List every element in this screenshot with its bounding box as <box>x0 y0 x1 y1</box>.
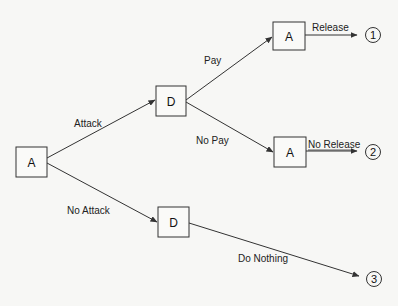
outcome-label: 2 <box>370 146 376 158</box>
edge-label-pay: Pay <box>204 55 221 66</box>
node-label: A <box>27 156 35 170</box>
node-label: A <box>286 146 294 160</box>
edge-label-no-pay: No Pay <box>196 135 229 146</box>
edge-label-no-release: No Release <box>308 139 361 150</box>
node-attacker-paid: A <box>273 22 305 50</box>
edge-attack: Attack <box>47 100 155 158</box>
edge-label-no-attack: No Attack <box>67 205 111 216</box>
edge-label-release: Release <box>312 22 349 33</box>
game-tree-diagram: Attack No Attack Pay No Pay Release No R… <box>0 0 398 306</box>
outcome-1: 1 <box>366 28 381 43</box>
outcome-label: 1 <box>370 29 376 41</box>
edge-no-pay: No Pay <box>186 102 273 152</box>
edge-no-release: No Release <box>306 139 361 151</box>
node-defender-not-attacked: D <box>158 207 189 237</box>
node-label: D <box>169 216 178 230</box>
edge-label-do-nothing: Do Nothing <box>238 253 288 264</box>
outcome-label: 3 <box>371 273 377 285</box>
node-defender-attacked: D <box>156 86 186 116</box>
node-attacker-not-paid: A <box>274 137 306 167</box>
edge-pay: Pay <box>186 37 272 100</box>
edge-no-attack: No Attack <box>47 163 157 222</box>
node-label: D <box>167 95 176 109</box>
node-root-attacker: A <box>16 147 47 177</box>
edge-release: Release <box>305 22 357 35</box>
node-label: A <box>285 30 293 44</box>
outcome-2: 2 <box>366 145 381 160</box>
edge-label-attack: Attack <box>74 118 103 129</box>
outcome-3: 3 <box>367 272 382 287</box>
edge-do-nothing: Do Nothing <box>189 223 359 276</box>
